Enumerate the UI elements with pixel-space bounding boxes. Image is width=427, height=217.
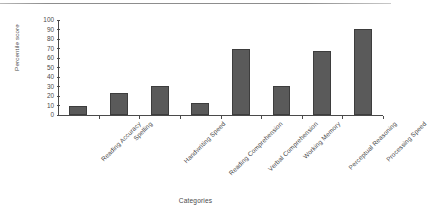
- y-axis-tick: 60: [34, 54, 58, 62]
- y-axis-tick-mark: [57, 96, 60, 97]
- y-axis-tick-label: 100: [43, 16, 54, 24]
- y-axis-tick: 50: [34, 64, 58, 72]
- y-axis-tick-label: 70: [47, 45, 54, 53]
- x-axis-title: Categories: [0, 197, 391, 204]
- bar: [313, 51, 331, 115]
- x-axis-tick-mark: [139, 116, 140, 119]
- y-axis-tick: 0: [34, 111, 58, 119]
- bar: [354, 29, 372, 115]
- x-axis-tick-mark: [180, 116, 181, 119]
- y-axis-tick-mark: [57, 115, 60, 116]
- bar: [273, 86, 291, 115]
- x-axis-tick-mark: [342, 116, 343, 119]
- y-axis-tick-mark: [57, 86, 60, 87]
- y-axis-tick: 100: [34, 16, 58, 24]
- y-axis-tick-label: 30: [47, 83, 54, 91]
- y-axis-tick-label: 10: [47, 102, 54, 110]
- y-axis-tick: 10: [34, 102, 58, 110]
- y-axis-tick-label: 40: [47, 73, 54, 81]
- y-axis-tick: 40: [34, 73, 58, 81]
- y-axis-tick: 80: [34, 35, 58, 43]
- y-axis-tick-mark: [57, 67, 60, 68]
- y-axis-tick-mark: [57, 105, 60, 106]
- x-axis-tick-mark: [383, 116, 384, 119]
- y-axis-tick: 30: [34, 83, 58, 91]
- y-axis-tick-label: 0: [50, 111, 54, 119]
- y-axis-tick-label: 80: [47, 35, 54, 43]
- x-axis-tick-mark: [99, 116, 100, 119]
- y-axis-title: Percentile score: [13, 8, 20, 88]
- x-axis-tick-label: Handwriting Speed: [182, 120, 226, 164]
- y-axis-tick: 90: [34, 26, 58, 34]
- bar: [151, 86, 169, 115]
- y-axis-tick: 70: [34, 45, 58, 53]
- y-axis-tick-label: 50: [47, 64, 54, 72]
- y-axis-tick-mark: [57, 48, 60, 49]
- x-axis-tick-label: Perceptual Reasoning: [347, 120, 398, 171]
- y-axis-line: [58, 20, 59, 116]
- plot-area: 0102030405060708090100: [58, 20, 383, 115]
- y-axis-tick-mark: [57, 20, 60, 21]
- x-axis-tick-mark: [302, 116, 303, 119]
- bar: [110, 93, 128, 115]
- x-axis-tick-mark: [261, 116, 262, 119]
- y-axis-tick-label: 60: [47, 54, 54, 62]
- y-axis-tick: 20: [34, 92, 58, 100]
- y-axis-tick-mark: [57, 39, 60, 40]
- bar: [191, 103, 209, 115]
- bar: [232, 49, 250, 115]
- bar: [69, 106, 87, 115]
- y-axis-tick-label: 90: [47, 26, 54, 34]
- y-axis-tick-mark: [57, 77, 60, 78]
- y-axis-tick-label: 20: [47, 92, 54, 100]
- y-axis-tick-mark: [57, 58, 60, 59]
- y-axis-tick-mark: [57, 29, 60, 30]
